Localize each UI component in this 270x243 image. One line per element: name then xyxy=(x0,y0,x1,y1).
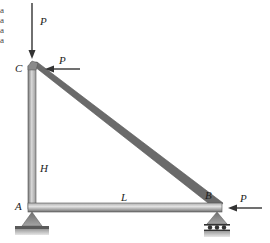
member-cb xyxy=(30,62,223,210)
label-p-b: P xyxy=(240,193,247,204)
frame-diagram xyxy=(0,0,270,243)
pin-support-a xyxy=(15,212,49,235)
label-dimension-h: H xyxy=(40,163,48,174)
label-p-top: P xyxy=(40,16,47,27)
joint-c xyxy=(28,61,38,70)
label-node-a: A xyxy=(15,201,22,212)
load-arrow-left-c xyxy=(45,66,80,73)
label-dimension-l: L xyxy=(121,192,127,203)
label-node-c: C xyxy=(15,63,22,74)
label-p-c: P xyxy=(59,55,66,66)
load-arrow-down-c xyxy=(29,3,36,59)
member-ac xyxy=(28,66,36,209)
roller-support-b xyxy=(204,212,230,237)
load-arrow-left-b xyxy=(228,205,262,212)
member-ab xyxy=(28,203,222,212)
label-node-b: B xyxy=(205,190,212,201)
